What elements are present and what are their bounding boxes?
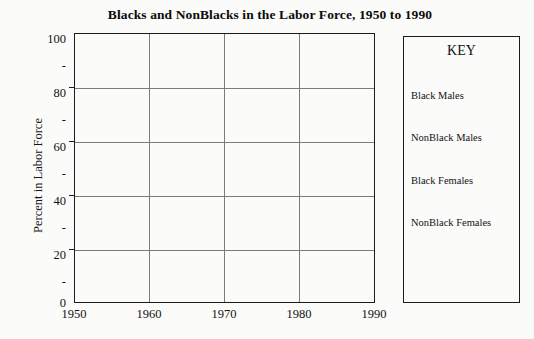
legend-item-nonblack-males: NonBlack Males: [411, 133, 482, 144]
legend-item-black-females: Black Females: [411, 176, 473, 187]
y-tick-label-40: 40: [20, 195, 66, 208]
legend-title: KEY: [404, 43, 519, 59]
legend-item-nonblack-females: NonBlack Females: [411, 218, 491, 229]
plot-area: [74, 33, 375, 303]
y-tick-label-20: 20: [20, 249, 66, 262]
y-minor-tick-30: -: [20, 222, 66, 235]
y-minor-tick-70: -: [20, 114, 66, 127]
y-minor-tick-10: -: [20, 276, 66, 289]
y-tick-label-60: 60: [20, 141, 66, 154]
y-minor-tick-90: -: [20, 60, 66, 73]
x-tick-label-1980: 1980: [269, 308, 329, 321]
y-tick-label-100: 100: [20, 33, 66, 46]
legend-box: KEY Black Males NonBlack Males Black Fem…: [403, 36, 520, 303]
gridline-x-1980: [299, 34, 300, 302]
gridline-x-1960: [149, 34, 150, 302]
chart-page: Blacks and NonBlacks in the Labor Force,…: [0, 0, 534, 339]
y-tick-label-80: 80: [20, 87, 66, 100]
x-tick-label-1950: 1950: [44, 308, 104, 321]
x-tick-label-1990: 1990: [344, 308, 404, 321]
plot-inner: [75, 34, 374, 302]
y-minor-tick-50: -: [20, 168, 66, 181]
x-tick-label-1970: 1970: [194, 308, 254, 321]
x-tick-label-1960: 1960: [119, 308, 179, 321]
legend-item-black-males: Black Males: [411, 91, 464, 102]
gridline-x-1970: [224, 34, 225, 302]
page-title: Blacks and NonBlacks in the Labor Force,…: [60, 7, 480, 23]
